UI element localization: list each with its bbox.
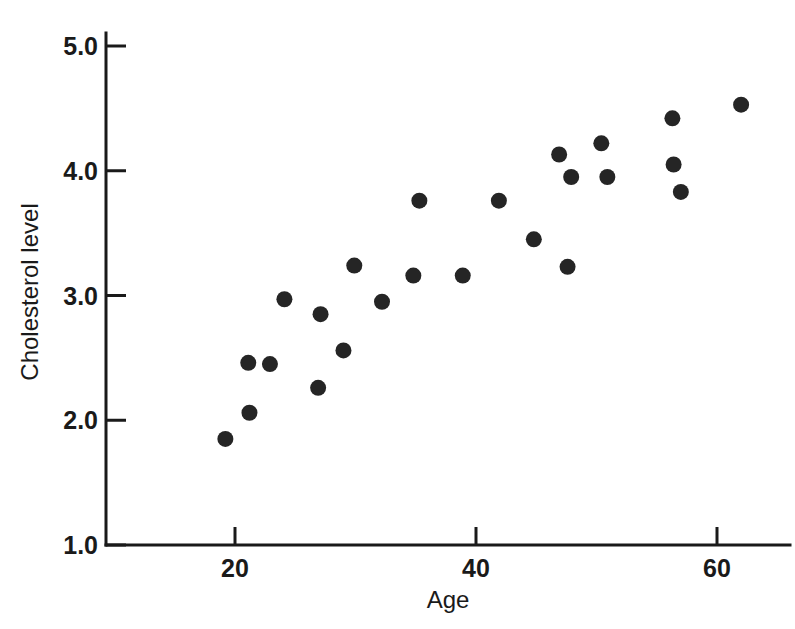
- data-point: [240, 355, 256, 371]
- y-tick-label-4.0: 4.0: [63, 157, 98, 185]
- data-point: [405, 268, 421, 284]
- chart-canvas: 1.02.03.04.05.0 204060 Age Cholesterol l…: [0, 0, 795, 629]
- data-point: [664, 110, 680, 126]
- data-point: [374, 294, 390, 310]
- data-point: [262, 356, 278, 372]
- data-point: [310, 380, 326, 396]
- data-point: [411, 193, 427, 209]
- data-point: [276, 291, 292, 307]
- scatter-plot-figure: 1.02.03.04.05.0 204060 Age Cholesterol l…: [0, 0, 795, 629]
- x-tick-label-40: 40: [462, 554, 490, 582]
- y-tick-label-3.0: 3.0: [63, 282, 98, 310]
- data-point: [455, 268, 471, 284]
- data-point: [526, 231, 542, 247]
- x-tick-label-60: 60: [703, 554, 731, 582]
- data-point: [599, 169, 615, 185]
- data-point: [346, 258, 362, 274]
- data-point: [217, 431, 233, 447]
- y-tick-label-2.0: 2.0: [63, 406, 98, 434]
- x-tick-label-20: 20: [221, 554, 249, 582]
- data-point: [593, 135, 609, 151]
- chart-background: [0, 0, 795, 629]
- data-point: [335, 342, 351, 358]
- data-point: [551, 147, 567, 163]
- data-point: [666, 157, 682, 173]
- y-axis-title: Cholesterol level: [16, 203, 43, 380]
- data-point: [241, 405, 257, 421]
- data-point: [563, 169, 579, 185]
- data-point: [673, 184, 689, 200]
- y-tick-label-1.0: 1.0: [63, 531, 98, 559]
- x-axis-title: Age: [427, 586, 470, 613]
- data-point: [560, 259, 576, 275]
- data-point: [491, 193, 507, 209]
- y-tick-label-5.0: 5.0: [63, 32, 98, 60]
- data-point: [733, 97, 749, 113]
- data-point: [313, 306, 329, 322]
